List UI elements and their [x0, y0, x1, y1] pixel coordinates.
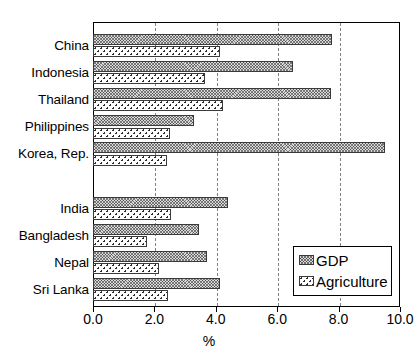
x-tick-label-0.0: 0.0: [63, 312, 123, 327]
bar-gdp-nepal: [93, 251, 207, 262]
bar-agriculture-korea-rep: [93, 155, 167, 166]
bar-agriculture-nepal: [93, 263, 159, 274]
category-label-indonesia: Indonesia: [1, 66, 89, 80]
bar-gdp-korea-rep: [93, 142, 385, 153]
bar-agriculture-indonesia: [93, 73, 205, 84]
bar-chart: ChinaIndonesiaThailandPhilippinesKorea, …: [0, 0, 418, 356]
x-tick-label-2.0: 2.0: [124, 312, 184, 327]
legend-label-gdp: GDP: [316, 253, 349, 268]
bar-gdp-sri-lanka: [93, 278, 220, 289]
legend-swatch-agriculture-icon: [299, 276, 314, 286]
legend: GDP Agriculture: [293, 246, 392, 296]
bar-agriculture-china: [93, 46, 220, 57]
category-label-korea-rep: Korea, Rep.: [1, 147, 89, 161]
bar-gdp-thailand: [93, 88, 331, 99]
category-labels: ChinaIndonesiaThailandPhilippinesKorea, …: [0, 22, 89, 307]
bar-agriculture-sri-lanka: [93, 290, 168, 301]
bar-agriculture-philippines: [93, 128, 170, 139]
x-tick-label-10.0: 10.0: [370, 312, 418, 327]
category-label-philippines: Philippines: [1, 120, 89, 134]
category-label-bangladesh: Bangladesh: [1, 229, 89, 243]
bar-agriculture-india: [93, 209, 171, 220]
category-label-india: India: [1, 202, 89, 216]
bar-gdp-indonesia: [93, 61, 293, 72]
category-label-sri-lanka: Sri Lanka: [1, 283, 89, 297]
bar-gdp-bangladesh: [93, 224, 199, 235]
bar-gdp-china: [93, 34, 332, 45]
x-axis-title: %: [0, 334, 418, 349]
x-tick-label-8.0: 8.0: [309, 312, 369, 327]
bar-agriculture-thailand: [93, 100, 223, 111]
category-label-thailand: Thailand: [1, 93, 89, 107]
legend-item-agriculture: Agriculture: [299, 271, 388, 291]
bar-agriculture-bangladesh: [93, 236, 147, 247]
bar-gdp-philippines: [93, 115, 194, 126]
legend-label-agriculture: Agriculture: [316, 274, 388, 289]
category-label-china: China: [1, 39, 89, 53]
legend-item-gdp: GDP: [299, 250, 349, 270]
legend-swatch-gdp-icon: [299, 255, 314, 265]
x-tick-label-4.0: 4.0: [186, 312, 246, 327]
bar-gdp-india: [93, 197, 228, 208]
x-tick-label-6.0: 6.0: [247, 312, 307, 327]
category-label-nepal: Nepal: [1, 256, 89, 270]
